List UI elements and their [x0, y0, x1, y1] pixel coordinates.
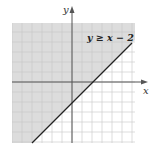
y-axis-label: y — [62, 4, 69, 15]
y-axis-arrow-icon — [70, 6, 75, 13]
inequality-annotation: y ≥ x − 2 — [86, 32, 134, 43]
x-axis-arrow-icon — [141, 80, 148, 85]
inequality-graph: y x y ≥ x − 2 — [0, 0, 155, 160]
x-axis-label: x — [143, 85, 149, 96]
